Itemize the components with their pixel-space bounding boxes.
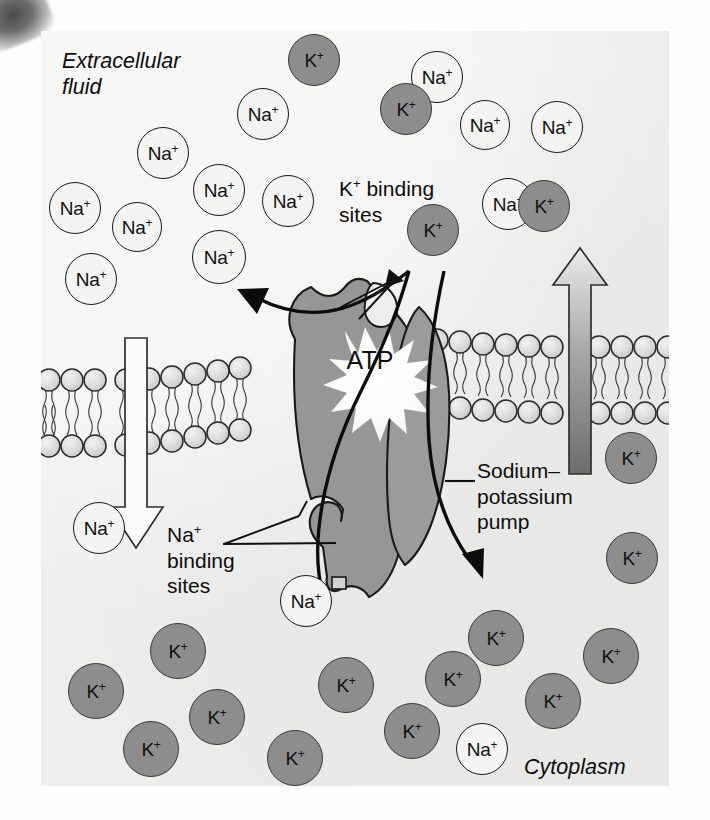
- pump-label-line2: potassium: [477, 484, 573, 510]
- na-binding-sites-line3: sites: [167, 573, 235, 599]
- extracellular-fluid-line1: Extracellular: [62, 48, 180, 74]
- extracellular-fluid-label: Extracellular fluid: [62, 48, 180, 100]
- pump-label-line1: Sodium–: [477, 458, 573, 484]
- k-binding-sites-line1: K+ binding: [339, 176, 434, 202]
- na-binding-sites-label: Na+ binding sites: [167, 522, 235, 599]
- pump-label: Sodium– potassium pump: [477, 458, 573, 535]
- extracellular-fluid-line2: fluid: [62, 74, 180, 100]
- na-binding-sites-line1: Na+: [167, 522, 235, 548]
- cytoplasm-label: Cytoplasm: [524, 754, 626, 780]
- pump-label-line3: pump: [477, 509, 573, 535]
- k-binding-sites-label: K+ binding sites: [339, 176, 434, 227]
- k-binding-sites-line2: sites: [339, 202, 434, 228]
- leader-lines: [41, 31, 669, 786]
- diagram-panel: ATP Na+ Na+ Na+ Na+ Na+ Na+ Na+ Na+ Na+ …: [41, 31, 669, 786]
- na-binding-sites-line2: binding: [167, 548, 235, 574]
